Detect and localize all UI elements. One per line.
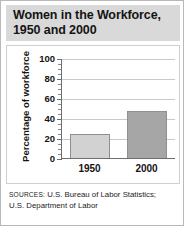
y-axis-tick-labels: 020406080100 bbox=[29, 59, 55, 159]
plot-frame: Percentage of workforce 020406080100 195… bbox=[6, 45, 180, 184]
gridline-60 bbox=[61, 99, 175, 100]
chart-title-line-1: Women in the Workforce, bbox=[13, 8, 174, 23]
y-tick-minor-50 bbox=[58, 109, 61, 110]
y-tick-label-60: 60 bbox=[29, 94, 55, 104]
y-tick-minor-70 bbox=[58, 89, 61, 90]
y-tick-label-40: 40 bbox=[29, 114, 55, 124]
y-tick-minor-95 bbox=[58, 64, 61, 65]
y-tick-minor-35 bbox=[58, 124, 61, 125]
x-axis-line bbox=[61, 158, 175, 159]
y-tick-major-20 bbox=[57, 139, 62, 140]
y-tick-minor-65 bbox=[58, 94, 61, 95]
y-tick-major-80 bbox=[57, 79, 62, 80]
y-tick-minor-30 bbox=[58, 129, 61, 130]
source-line-1: U.S. Bureau of Labor Statistics; bbox=[45, 190, 156, 199]
gridline-100 bbox=[61, 59, 175, 60]
y-tick-minor-5 bbox=[58, 154, 61, 155]
y-tick-label-0: 0 bbox=[29, 154, 55, 164]
gridline-80 bbox=[61, 79, 175, 80]
bar-2000 bbox=[127, 111, 167, 158]
y-tick-major-40 bbox=[57, 119, 62, 120]
y-tick-label-100: 100 bbox=[29, 54, 55, 64]
y-tick-label-80: 80 bbox=[29, 74, 55, 84]
chart-title-band: Women in the Workforce, 1950 and 2000 bbox=[6, 5, 180, 41]
x-tick-label-2000: 2000 bbox=[118, 164, 175, 174]
y-tick-major-60 bbox=[57, 99, 62, 100]
y-tick-minor-55 bbox=[58, 104, 61, 105]
y-tick-minor-25 bbox=[58, 134, 61, 135]
source-line-2: U.S. Department of Labor bbox=[9, 201, 98, 210]
y-tick-minor-10 bbox=[58, 149, 61, 150]
x-tick-label-1950: 1950 bbox=[61, 164, 118, 174]
bar-1950 bbox=[70, 134, 110, 158]
source-label: SOURCES: bbox=[9, 191, 45, 198]
y-tick-minor-75 bbox=[58, 84, 61, 85]
y-tick-minor-45 bbox=[58, 114, 61, 115]
y-tick-major-100 bbox=[57, 59, 62, 60]
chart-title-line-2: 1950 and 2000 bbox=[13, 23, 174, 38]
y-tick-minor-15 bbox=[58, 144, 61, 145]
plot-area: 020406080100 19502000 bbox=[61, 59, 175, 159]
chart-figure: Women in the Workforce, 1950 and 2000 Pe… bbox=[0, 0, 184, 226]
y-tick-minor-85 bbox=[58, 74, 61, 75]
y-tick-label-20: 20 bbox=[29, 134, 55, 144]
y-tick-minor-90 bbox=[58, 69, 61, 70]
y-tick-major-0 bbox=[57, 159, 62, 160]
y-axis-line bbox=[61, 59, 62, 160]
source-note: SOURCES: U.S. Bureau of Labor Statistics… bbox=[9, 190, 179, 211]
